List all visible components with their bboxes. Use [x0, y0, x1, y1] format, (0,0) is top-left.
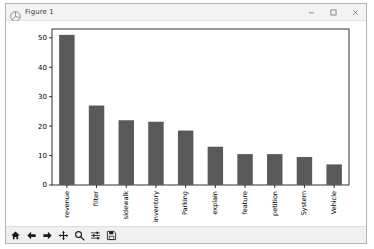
back-button[interactable] [24, 228, 39, 243]
x-tick-label: inventory [152, 191, 160, 222]
bar-chart: 01020304050 revenuefiltersidewalkinvento… [6, 21, 366, 226]
bar [148, 122, 163, 185]
figure-window: Figure 1 [5, 3, 367, 244]
y-tick-label: 40 [38, 64, 47, 72]
title-bar: Figure 1 [6, 4, 366, 21]
x-tick-label: petition [271, 191, 279, 216]
window-controls [300, 4, 366, 20]
x-tick-label: explain [211, 191, 219, 215]
pan-button[interactable] [56, 228, 71, 243]
bar [267, 154, 282, 185]
zoom-button[interactable] [72, 228, 87, 243]
x-tick-label: filter [92, 191, 100, 206]
bar [326, 164, 341, 185]
y-tick-label: 30 [38, 93, 47, 101]
minimize-button[interactable] [300, 4, 322, 21]
figure-canvas[interactable]: 01020304050 revenuefiltersidewalkinvento… [6, 21, 366, 226]
close-button[interactable] [344, 4, 366, 21]
y-tick-label: 20 [38, 123, 47, 131]
home-button[interactable] [8, 228, 23, 243]
x-tick-label: sidewalk [122, 191, 130, 219]
y-tick-label: 10 [38, 152, 47, 160]
bar [208, 147, 223, 185]
bar [297, 157, 312, 185]
x-tick-label: revenue [63, 191, 71, 218]
bar [178, 131, 193, 185]
bar [89, 106, 104, 185]
y-tick-label: 50 [38, 34, 47, 42]
maximize-button[interactable] [322, 4, 344, 21]
x-tick-label: System [300, 191, 308, 215]
bar [59, 35, 74, 185]
bar [119, 120, 134, 185]
window-title: Figure 1 [25, 8, 300, 16]
save-button[interactable] [104, 228, 119, 243]
navigation-toolbar [6, 226, 366, 243]
x-tick-label: Parking [181, 191, 189, 215]
x-tick-label: feature [241, 191, 249, 214]
configure-subplots-button[interactable] [88, 228, 103, 243]
forward-button[interactable] [40, 228, 55, 243]
bar [237, 154, 252, 185]
matplotlib-icon [10, 7, 21, 18]
x-tick-label: Vehicle [330, 191, 338, 214]
y-tick-label: 0 [43, 181, 47, 189]
